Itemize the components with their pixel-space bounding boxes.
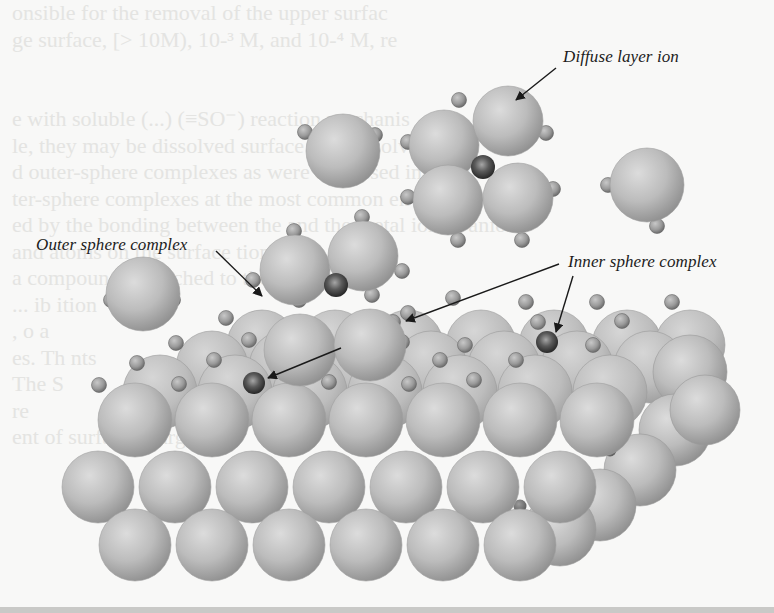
oxygen-atom-icon — [670, 375, 740, 445]
hydrogen-atom-icon — [402, 377, 417, 392]
hydrogen-atom-icon — [207, 353, 222, 368]
hydrogen-atom-icon — [219, 311, 234, 326]
metal-ion-icon — [536, 331, 558, 353]
figure-page: onsible for the removal of the upper sur… — [0, 0, 774, 613]
hydrogen-atom-icon — [246, 273, 261, 288]
hydrogen-atom-icon — [665, 295, 680, 310]
oxygen-atom-icon — [407, 509, 479, 581]
metal-ion-icon — [471, 155, 495, 179]
diffuse-layer-ion-cluster — [401, 86, 561, 248]
hydrogen-atom-icon — [615, 314, 630, 329]
metal-ion-icon — [324, 273, 348, 297]
hydrogen-atom-icon — [515, 233, 530, 248]
oxygen-atom-icon — [406, 383, 480, 457]
hydrogen-atom-icon — [467, 373, 482, 388]
hydrogen-atom-icon — [531, 315, 546, 330]
label-outer-sphere-complex: Outer sphere complex — [36, 235, 188, 255]
water-oxygen-icon — [473, 86, 543, 156]
oxygen-atom-icon — [252, 383, 326, 457]
hydrogen-atom-icon — [458, 338, 473, 353]
pointer-arrow-icon — [516, 68, 556, 100]
water-oxygen-icon — [334, 309, 406, 381]
metal-ion-icon — [243, 372, 265, 394]
hydrogen-atom-icon — [433, 353, 448, 368]
oxygen-atom-icon — [329, 383, 403, 457]
hydrogen-atom-icon — [242, 333, 257, 348]
hydrogen-atom-icon — [590, 295, 605, 310]
water-oxygen-icon — [413, 165, 483, 235]
oxygen-atom-icon — [484, 509, 556, 581]
hydrogen-atom-icon — [169, 336, 184, 351]
water-oxygen-icon — [483, 163, 553, 233]
hydrogen-atom-icon — [452, 93, 467, 108]
hydrogen-atom-icon — [509, 353, 524, 368]
hydrogen-atom-icon — [586, 338, 601, 353]
page-edge-band — [0, 607, 774, 613]
water-molecule-icon — [106, 257, 180, 331]
oxygen-atom-icon — [483, 383, 557, 457]
hydrogen-atom-icon — [130, 356, 145, 371]
water-molecule-icon — [610, 148, 684, 222]
water-molecule-icon — [306, 114, 380, 188]
oxygen-atom-icon — [98, 383, 172, 457]
surface-complexation-diagram — [0, 0, 774, 613]
hydrogen-atom-icon — [519, 295, 534, 310]
water-oxygen-icon — [260, 235, 330, 305]
hydrogen-atom-icon — [92, 378, 107, 393]
label-inner-sphere-complex: Inner sphere complex — [568, 252, 717, 272]
oxygen-atom-icon — [175, 383, 249, 457]
oxygen-atom-icon — [176, 509, 248, 581]
oxygen-atom-icon — [560, 383, 634, 457]
oxygen-atom-icon — [253, 509, 325, 581]
hydrogen-atom-icon — [172, 377, 187, 392]
outer-sphere-complex-cluster — [246, 210, 416, 387]
surface-front-layer — [62, 383, 634, 581]
oxygen-atom-icon — [330, 509, 402, 581]
label-diffuse-layer-ion: Diffuse layer ion — [563, 47, 679, 67]
oxygen-atom-icon — [99, 509, 171, 581]
